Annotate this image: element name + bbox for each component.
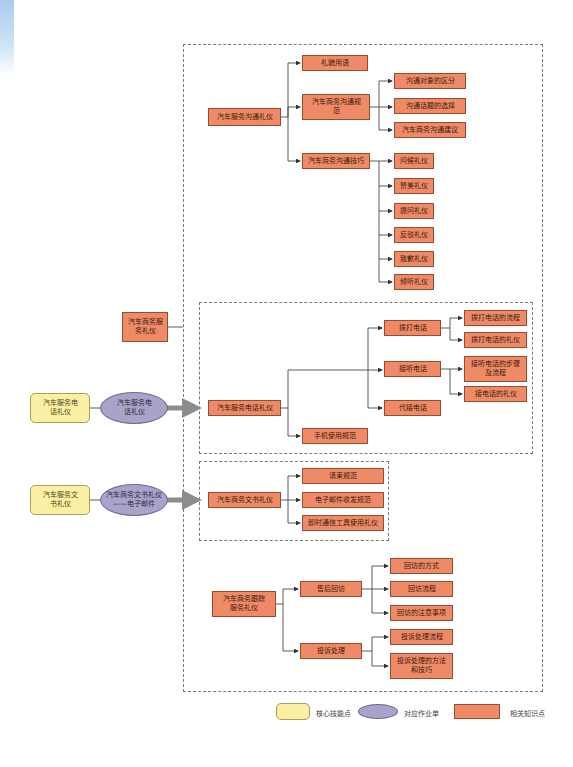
- followup-aftersales-item: 回访的注意事项: [390, 605, 453, 621]
- root-node: 汽车商务服务礼仪: [122, 312, 168, 342]
- phone-answer-item-label: 接听电话的步骤及流程: [470, 360, 522, 378]
- phone-proxy-label: 代接电话: [399, 404, 427, 413]
- comm-skill-item-label: 问候礼仪: [400, 157, 428, 166]
- phone-answer-item: 接电话的礼仪: [464, 386, 527, 402]
- document-item: 即时通信工具使用礼仪: [302, 515, 384, 531]
- comm-norms-item: 沟通话题的选择: [394, 98, 466, 114]
- document-item-label: 电子邮件收发规范: [315, 496, 371, 505]
- connector-lines: [0, 0, 573, 767]
- document-item-label: 请柬规范: [329, 472, 357, 481]
- phone-dial-item-label: 拨打电话的礼仪: [471, 336, 520, 345]
- worksheet-phone: 汽车服务电话礼仪: [100, 392, 168, 424]
- phone-dial-item-label: 拨打电话的流程: [471, 314, 520, 323]
- core-skill-document-label: 汽车服务文书礼仪: [42, 491, 78, 509]
- comm-skill-item-label: 提问礼仪: [400, 207, 428, 216]
- comm-skills-label: 汽车商务沟通技巧: [308, 157, 364, 166]
- core-skill-document: 汽车服务文书礼仪: [30, 485, 90, 515]
- phone-proxy: 代接电话: [384, 400, 441, 416]
- comm-skill-item-label: 赞美礼仪: [400, 182, 428, 191]
- phone-mobile-label: 手机使用规范: [314, 432, 356, 441]
- comm-skills: 汽车商务沟通技巧: [302, 153, 370, 169]
- phone-mobile: 手机使用规范: [302, 428, 368, 444]
- followup-aftersales-item-label: 回访流程: [408, 585, 436, 594]
- worksheet-document-label: 汽车商务文书礼仪——电子邮件: [106, 491, 162, 509]
- document-item: 电子邮件收发规范: [302, 492, 384, 508]
- document-item-label: 即时通信工具使用礼仪: [308, 519, 378, 528]
- legend-core-swatch: [276, 703, 310, 720]
- phone-dial-label: 拨打电话: [399, 324, 427, 333]
- legend-core-label: 核心技能点: [316, 708, 351, 718]
- comm-skill-item: 提问礼仪: [394, 203, 434, 219]
- phone-dial-item: 拨打电话的流程: [464, 310, 527, 326]
- phone-label: 汽车服务电话礼仪: [217, 404, 273, 413]
- followup-node: 汽车商务跟踪服务礼仪: [212, 591, 276, 617]
- followup-complaint-item: 投诉处理的方法和技巧: [390, 653, 453, 679]
- followup-aftersales-item: 回访流程: [390, 581, 453, 597]
- worksheet-document: 汽车商务文书礼仪——电子邮件: [100, 484, 168, 516]
- comm-skill-item-label: 反驳礼仪: [400, 231, 428, 240]
- comm-polite-language-label: 礼貌用语: [321, 59, 349, 68]
- comm-skill-item-label: 致歉礼仪: [400, 255, 428, 264]
- phone-answer: 接听电话: [384, 361, 441, 377]
- comm-skill-item: 反驳礼仪: [394, 227, 434, 243]
- legend-knowledge-label: 相关知识点: [510, 708, 545, 718]
- followup-complaint-item-label: 投诉处理流程: [401, 633, 443, 642]
- core-skill-phone-label: 汽车服务电话礼仪: [42, 399, 78, 417]
- followup-complaint-label: 投诉处理: [317, 647, 345, 656]
- followup-complaint-item-label: 投诉处理的方法和技巧: [396, 657, 448, 675]
- root-label: 汽车商务服务礼仪: [125, 318, 165, 336]
- followup-label: 汽车商务跟踪服务礼仪: [220, 595, 268, 613]
- document-item: 请柬规范: [302, 468, 384, 484]
- legend-worksheet-swatch: [358, 704, 398, 719]
- comm-norms-item: 沟通对象的区分: [394, 73, 466, 89]
- legend-worksheet-label: 对应作业单: [404, 708, 439, 718]
- phone-answer-label: 接听电话: [399, 365, 427, 374]
- document-node: 汽车商务文书礼仪: [208, 492, 281, 508]
- comm-norms-item-label: 汽车商务沟通建议: [402, 126, 458, 135]
- phone-dial-item: 拨打电话的礼仪: [464, 332, 527, 348]
- phone-answer-item-label: 接电话的礼仪: [475, 390, 517, 399]
- phone-node: 汽车服务电话礼仪: [208, 400, 281, 416]
- comm-norms: 汽车商务沟通规范: [302, 94, 370, 120]
- legend-knowledge-swatch: [454, 704, 500, 719]
- comm-polite-language: 礼貌用语: [302, 55, 368, 71]
- comm-skill-item: 致歉礼仪: [394, 251, 434, 267]
- followup-aftersales: 售后回访: [300, 581, 362, 597]
- followup-aftersales-item: 回访的方式: [390, 558, 453, 574]
- followup-complaint-item: 投诉处理流程: [390, 629, 453, 645]
- comm-norms-item-label: 沟通对象的区分: [406, 77, 455, 86]
- document-label: 汽车商务文书礼仪: [217, 496, 273, 505]
- comm-skill-item: 问候礼仪: [394, 153, 434, 169]
- phone-dial: 拨打电话: [384, 320, 441, 336]
- phone-answer-item: 接听电话的步骤及流程: [464, 356, 527, 382]
- followup-aftersales-item-label: 回访的注意事项: [397, 609, 446, 618]
- followup-complaint: 投诉处理: [300, 643, 362, 659]
- comm-norms-label: 汽车商务沟通规范: [311, 98, 361, 116]
- comm-skill-item: 赞美礼仪: [394, 178, 434, 194]
- comm-skill-item: 倾听礼仪: [394, 274, 434, 290]
- comm-norms-item: 汽车商务沟通建议: [394, 122, 466, 138]
- followup-aftersales-item-label: 回访的方式: [404, 562, 439, 571]
- communication-node: 汽车服务沟通礼仪: [208, 108, 281, 126]
- communication-label: 汽车服务沟通礼仪: [217, 113, 273, 122]
- followup-aftersales-label: 售后回访: [317, 585, 345, 594]
- comm-skill-item-label: 倾听礼仪: [400, 278, 428, 287]
- core-skill-phone: 汽车服务电话礼仪: [30, 393, 90, 423]
- worksheet-phone-label: 汽车服务电话礼仪: [116, 399, 152, 417]
- comm-norms-item-label: 沟通话题的选择: [406, 102, 455, 111]
